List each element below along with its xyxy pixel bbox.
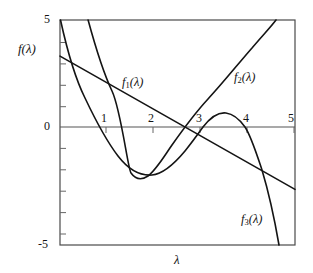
- curve-label-f2-sub: 2: [237, 75, 241, 85]
- x-tick-label-5: 5: [288, 112, 294, 124]
- curve-label-f2: f2(λ): [234, 71, 255, 84]
- x-tick-label-3: 3: [196, 112, 202, 124]
- figure-plot-f-lambda: f(λ) 5 0 -5 1 2 3 4 5 λ f1(λ) f2(λ) f3(λ…: [0, 0, 313, 273]
- curve-label-f1-sub: 1: [125, 80, 129, 90]
- y-axis-title: f(λ): [18, 42, 36, 55]
- plot-canvas: [0, 0, 313, 273]
- curve-label-f3: f3(λ): [241, 213, 262, 226]
- curve-label-f2-arg: (λ): [242, 70, 256, 84]
- curve-label-f1: f1(λ): [122, 76, 143, 89]
- curve-label-f3-sub: 3: [244, 217, 248, 227]
- y-tick-label-5: 5: [44, 13, 50, 25]
- curve-label-f1-arg: (λ): [130, 75, 144, 89]
- curve-f1: [60, 56, 295, 189]
- x-axis-title: λ: [174, 253, 180, 266]
- x-tick-label-2: 2: [148, 112, 154, 124]
- curve-label-f3-arg: (λ): [249, 212, 263, 226]
- x-tick-label-1: 1: [101, 112, 107, 124]
- y-axis-ticks: [60, 43, 66, 235]
- y-tick-label-minus5: -5: [38, 238, 48, 250]
- y-tick-label-0: 0: [44, 120, 50, 132]
- x-tick-label-4: 4: [243, 112, 249, 124]
